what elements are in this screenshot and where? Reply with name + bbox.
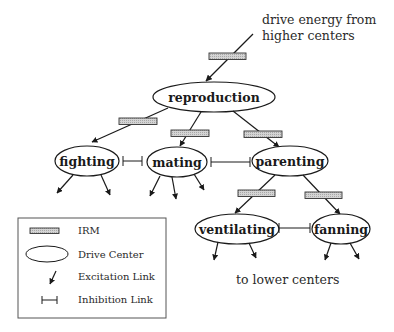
behavior-hierarchy-diagram: drive energy from higher centers reprodu… [0,0,394,332]
top-annotation-line2: higher centers [262,28,355,43]
excitation-link-fanning-out-2 [350,243,359,259]
irm-box [171,130,209,137]
svg-text:fanning: fanning [314,222,368,237]
inhibition-link-fighting-mating [123,156,142,166]
excitation-link-reproduction-to-fighting [92,108,168,142]
legend: IRM Drive Center Excitation Link Inhibit… [18,218,166,318]
legend-inhibition-label: Inhibition Link [78,294,154,305]
node-fighting: fighting [55,146,119,176]
node-ventilating: ventilating [195,214,279,244]
svg-text:ventilating: ventilating [198,222,275,237]
excitation-link-mating-out-1 [150,176,160,196]
excitation-link-mating-out-3 [194,174,204,190]
excitation-link-reproduction-to-mating [171,112,209,146]
excitation-link-fighting-out-2 [101,175,110,195]
irm-box [119,118,157,125]
irm-box [209,53,246,60]
legend-drive-center-symbol [26,246,68,262]
inhibition-link-ventilating-fanning [279,223,310,233]
bottom-annotation: to lower centers [236,272,339,287]
excitation-link-fighting-out-1 [57,175,73,193]
excitation-link-ventilating-out-2 [249,243,256,258]
node-parenting: parenting [252,146,328,176]
excitation-link-parenting-to-ventilating [235,175,275,213]
node-reproduction: reproduction [153,82,275,112]
svg-text:parenting: parenting [256,154,325,169]
excitation-link-parenting-to-fanning [303,175,342,214]
irm-box [238,190,275,197]
legend-drive-center-label: Drive Center [78,249,144,260]
excitation-link-mating-out-2 [172,177,176,199]
excitation-link-ventilating-out-1 [214,242,218,260]
legend-irm-label: IRM [78,225,100,236]
legend-excitation-label: Excitation Link [78,271,156,282]
excitation-link-higher-to-reproduction [206,34,253,81]
excitation-link-fanning-out-1 [325,243,331,260]
irm-box [244,131,282,138]
inhibition-link-mating-parenting [211,157,250,167]
node-fanning: fanning [312,214,370,244]
svg-text:mating: mating [152,155,202,170]
node-mating: mating [147,147,207,177]
svg-text:reproduction: reproduction [168,90,260,105]
top-annotation-line1: drive energy from [262,12,376,27]
svg-text:fighting: fighting [59,154,115,169]
excitation-link-reproduction-to-parenting [233,111,282,147]
legend-irm-symbol [30,228,59,234]
irm-box [305,192,342,199]
